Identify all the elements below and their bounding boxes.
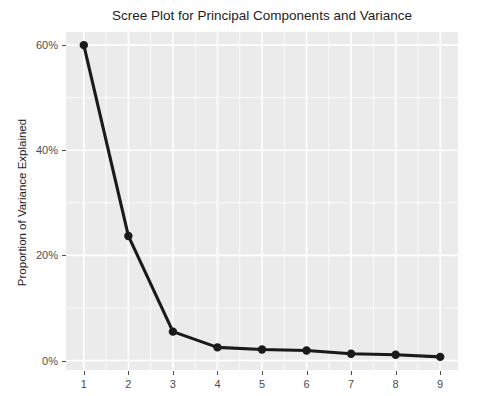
y-tick-mark	[62, 45, 66, 46]
x-tick-label: 3	[158, 378, 188, 390]
major-gridlines	[66, 32, 458, 370]
y-tick-mark	[62, 361, 66, 362]
x-tick-mark	[262, 371, 263, 375]
x-tick-label: 6	[292, 378, 322, 390]
y-tick-mark	[62, 255, 66, 256]
y-tick-label: 20%	[12, 249, 58, 261]
y-axis: 0%20%40%60%	[8, 0, 58, 396]
x-tick-mark	[351, 371, 352, 375]
x-tick-mark	[396, 371, 397, 375]
x-tick-label: 2	[113, 378, 143, 390]
x-tick-mark	[440, 371, 441, 375]
x-tick-mark	[84, 371, 85, 375]
data-point	[80, 41, 88, 49]
x-tick-mark	[217, 371, 218, 375]
plot-panel	[66, 32, 458, 370]
data-point	[258, 345, 266, 353]
data-point	[391, 351, 399, 359]
y-tick-label: 40%	[12, 144, 58, 156]
x-tick-label: 1	[69, 378, 99, 390]
y-tick-label: 0%	[12, 355, 58, 367]
data-point	[169, 327, 177, 335]
data-point	[124, 232, 132, 240]
data-point	[302, 346, 310, 354]
x-tick-label: 9	[425, 378, 455, 390]
scree-plot-figure: Scree Plot for Principal Components and …	[0, 0, 478, 396]
data-point	[436, 353, 444, 361]
x-tick-label: 8	[381, 378, 411, 390]
data-point	[213, 343, 221, 351]
data-point	[347, 350, 355, 358]
x-tick-label: 4	[202, 378, 232, 390]
x-tick-mark	[173, 371, 174, 375]
x-tick-mark	[128, 371, 129, 375]
y-tick-mark	[62, 150, 66, 151]
y-tick-label: 60%	[12, 39, 58, 51]
x-tick-label: 5	[247, 378, 277, 390]
x-tick-label: 7	[336, 378, 366, 390]
x-tick-mark	[307, 371, 308, 375]
page-title: Scree Plot for Principal Components and …	[66, 8, 458, 24]
plot-area	[66, 32, 458, 370]
